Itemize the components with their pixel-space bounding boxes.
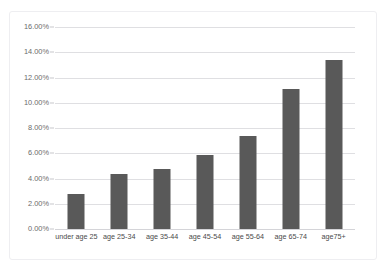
gridline [55,229,355,230]
y-axis-tick-label: 2.00% [28,200,49,207]
y-axis-tick-mark [50,128,54,129]
y-axis-tick-mark [50,77,54,78]
y-axis-tick-mark [50,178,54,179]
bar-slot [269,27,312,229]
bar-slot [312,27,355,229]
y-axis-tick-mark [50,229,54,230]
y-axis-tick-mark [50,203,54,204]
x-axis-category-label: age 55-64 [232,233,264,240]
y-axis-tick-label: 6.00% [28,150,49,157]
bar-slot [55,27,98,229]
y-axis-tick-label: 0.00% [28,225,49,232]
bar-slot [184,27,227,229]
x-axis-category-label: age75+ [321,233,345,240]
bar [154,169,171,229]
y-axis-tick-mark [50,52,54,53]
bar-slot [226,27,269,229]
x-axis-category-label: age 45-54 [189,233,221,240]
x-axis-category-labels: under age 25age 25-34age 35-44age 45-54a… [55,233,355,249]
y-axis-tick-mark [50,153,54,154]
plot-area: 0.00%2.00%4.00%6.00%8.00%10.00%12.00%14.… [55,27,355,229]
bar [325,60,342,229]
y-axis-tick-label: 16.00% [24,23,49,30]
bar [196,155,213,229]
bar-slot [98,27,141,229]
y-axis-tick-label: 14.00% [24,49,49,56]
bar-series [55,27,355,229]
y-axis-tick-mark [50,102,54,103]
bar [239,136,256,229]
y-axis-tick-label: 10.00% [24,99,49,106]
y-axis-tick-label: 12.00% [24,74,49,81]
y-axis-tick-label: 4.00% [28,175,49,182]
x-axis-category-label: age 35-44 [146,233,178,240]
y-axis-tick-label: 8.00% [28,124,49,131]
bar [282,89,299,229]
x-axis-category-label: age 65-74 [275,233,307,240]
bar [68,194,85,229]
bar-slot [141,27,184,229]
x-axis-category-label: age 25-34 [103,233,135,240]
y-axis-tick-mark [50,27,54,28]
x-axis-category-label: under age 25 [55,233,97,240]
bar [111,174,128,229]
